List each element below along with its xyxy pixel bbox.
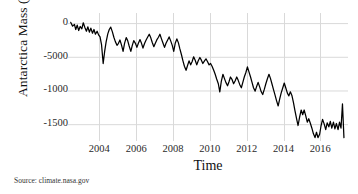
x-axis-title: Time [68,158,348,174]
plot-area [68,13,348,141]
y-axis-tick-label: 0 [28,16,68,27]
source-note: Source: climate.nasa.gov [14,176,89,185]
x-axis-tick-label: 2016 [310,143,331,154]
x-axis-tick-label: 2006 [126,143,147,154]
x-axis-tick-label: 2010 [199,143,220,154]
x-axis-tick-label: 2004 [89,143,110,154]
y-axis-tick-label: -1000 [28,83,68,94]
y-axis-tick-labels: 0-5000-1000-1500 [24,0,68,194]
y-axis-tick-label: -5000 [28,50,68,61]
x-axis-tick-label: 2014 [273,143,294,154]
y-axis-tick-label: -1500 [28,117,68,128]
chart-plot-svg [68,13,348,141]
x-axis-tick-labels: 2004200620082010201220142016 [0,143,358,159]
x-axis-tick-label: 2012 [236,143,257,154]
x-axis-tick-label: 2008 [163,143,184,154]
chart-figure: Antarctica Mass (Gt) 0-5000-1000-1500 20… [0,0,358,194]
data-line-antarctica-mass [71,22,344,137]
